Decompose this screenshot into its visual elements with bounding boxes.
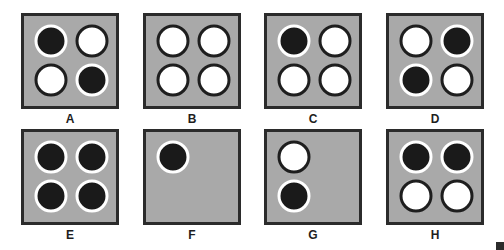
panel-f xyxy=(143,129,241,225)
empty-circle-icon xyxy=(278,141,311,174)
filled-circle-icon xyxy=(278,25,311,58)
panel-label: E xyxy=(21,228,119,242)
filled-circle-icon xyxy=(35,141,68,174)
panel-label: G xyxy=(264,228,362,242)
panel-label: B xyxy=(143,112,241,126)
filled-circle-icon xyxy=(278,180,311,213)
filled-circle-icon xyxy=(76,180,109,213)
filled-circle-icon xyxy=(441,25,474,58)
panel-h xyxy=(386,129,484,225)
empty-circle-icon xyxy=(157,64,190,97)
empty-circle-icon xyxy=(400,25,433,58)
panel-c xyxy=(264,13,362,109)
panel-label: F xyxy=(143,228,241,242)
panel-g xyxy=(264,129,362,225)
filled-circle-icon xyxy=(441,141,474,174)
empty-circle-icon xyxy=(278,64,311,97)
filled-circle-icon xyxy=(76,64,109,97)
panel-label: H xyxy=(386,228,484,242)
panel-e xyxy=(21,129,119,225)
panel-label: C xyxy=(264,112,362,126)
empty-circle-icon xyxy=(319,25,352,58)
filled-circle-icon xyxy=(400,64,433,97)
empty-circle-icon xyxy=(319,64,352,97)
empty-circle-icon xyxy=(198,64,231,97)
filled-circle-icon xyxy=(35,25,68,58)
empty-circle-icon xyxy=(400,180,433,213)
filled-circle-icon xyxy=(157,141,190,174)
panel-b xyxy=(143,13,241,109)
panel-label: A xyxy=(21,112,119,126)
panel-a xyxy=(21,13,119,109)
corner-mark xyxy=(496,242,504,250)
filled-circle-icon xyxy=(35,180,68,213)
empty-circle-icon xyxy=(35,64,68,97)
empty-circle-icon xyxy=(441,180,474,213)
empty-circle-icon xyxy=(76,25,109,58)
empty-circle-icon xyxy=(157,25,190,58)
empty-circle-icon xyxy=(198,25,231,58)
filled-circle-icon xyxy=(76,141,109,174)
panel-d xyxy=(386,13,484,109)
filled-circle-icon xyxy=(400,141,433,174)
empty-circle-icon xyxy=(441,64,474,97)
panel-label: D xyxy=(386,112,484,126)
